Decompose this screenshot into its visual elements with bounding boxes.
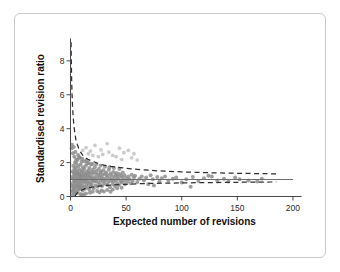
data-point [135,158,139,162]
data-point [260,177,264,181]
data-point [144,176,148,180]
data-point [72,145,76,149]
data-point [210,174,214,178]
data-point [109,190,113,194]
data-point [152,183,156,187]
data-point [155,175,159,179]
data-point [118,146,122,150]
y-tick-label: 4 [60,124,65,134]
data-point [163,174,167,178]
data-point [130,156,134,160]
data-point [206,174,210,178]
chart-root: 05010015020002468Expected number of revi… [35,39,302,227]
y-axis-title: Standardised revision ratio [35,54,46,183]
data-point [246,178,250,182]
x-tick-label: 0 [68,203,73,213]
data-point [81,148,85,152]
data-point [166,178,170,182]
data-point [114,155,118,159]
data-point [84,191,88,195]
y-tick-label: 8 [60,56,65,66]
data-point [86,152,90,156]
data-point [84,146,88,150]
data-point [102,189,106,193]
data-point [91,190,95,194]
x-axis-title: Expected number of revisions [113,216,256,227]
data-point [122,151,126,155]
scatter-points [70,143,264,197]
data-point [189,185,193,189]
data-point [174,176,178,180]
data-point [120,186,124,190]
data-point [255,180,259,184]
data-point [126,148,130,152]
data-point [115,186,119,190]
data-point [101,153,105,157]
y-tick-label: 6 [60,90,65,100]
data-point [149,173,153,177]
data-point [96,155,100,159]
data-point [140,174,144,178]
data-point [90,162,94,166]
data-point [107,150,111,154]
data-point [97,190,101,194]
data-point [91,154,95,158]
data-point [99,148,103,152]
data-point [93,143,97,147]
data-point [133,174,137,178]
scatter-points-light [81,142,139,162]
x-tick-label: 50 [121,203,131,213]
data-point [132,152,136,156]
chart-svg: 05010015020002468Expected number of revi… [0,0,340,272]
data-point [105,142,109,146]
x-tick-label: 100 [175,203,189,213]
data-point [111,154,115,158]
data-point [233,176,237,180]
y-tick-label: 0 [60,192,65,202]
data-point [215,178,219,182]
data-point [120,158,124,162]
x-tick-label: 200 [286,203,300,213]
funnel-plot-chart: 05010015020002468Expected number of revi… [0,0,340,272]
x-tick-label: 150 [230,203,244,213]
data-point [191,175,195,179]
y-tick-label: 2 [60,158,65,168]
data-point [222,177,226,181]
